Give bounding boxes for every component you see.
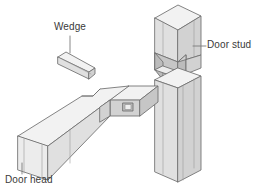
door-stud-lower-right-face xyxy=(178,76,201,182)
door-head-label: Door head xyxy=(5,175,53,185)
joint-illustration xyxy=(0,0,260,191)
door-stud-label: Door stud xyxy=(207,40,251,50)
wedge-shape xyxy=(58,52,95,79)
tusk-tenon-joint-diagram: Wedge Door stud Door head xyxy=(0,0,260,191)
wedge-label: Wedge xyxy=(54,22,86,32)
door-stud-shape xyxy=(155,5,201,182)
door-head-shape xyxy=(18,86,158,180)
tenon-wedge-slot-inner xyxy=(125,105,131,110)
door-stud-lower-front-face xyxy=(155,80,178,182)
